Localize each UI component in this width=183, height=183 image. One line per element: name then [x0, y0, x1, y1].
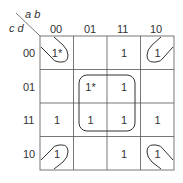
cell-01-00 — [40, 70, 74, 104]
cell-01-01: 1* — [74, 70, 108, 104]
cell-10-11: 1 — [107, 137, 141, 171]
row-variable-label: c d — [9, 23, 24, 34]
cell-00-01 — [74, 36, 108, 70]
cell-11-11: 1 — [107, 103, 141, 137]
cell-10-01 — [74, 137, 108, 171]
col-header-3: 10 — [150, 24, 162, 35]
cell-01-11: 1 — [107, 70, 141, 104]
col-header-2: 11 — [117, 24, 128, 35]
col-header-0: 00 — [50, 24, 62, 35]
cell-00-10: 1 — [141, 36, 175, 70]
row-header-0: 00 — [23, 48, 35, 59]
col-variable-label: a b — [25, 9, 40, 20]
cell-00-00: 1* — [40, 36, 74, 70]
cell-11-00: 1 — [40, 103, 74, 137]
col-header-1: 01 — [84, 24, 96, 35]
row-header-3: 10 — [23, 149, 35, 160]
cell-00-11: 1 — [107, 36, 141, 70]
cell-11-10: 1 — [141, 103, 175, 137]
row-header-1: 01 — [23, 82, 35, 93]
row-header-2: 11 — [23, 115, 34, 126]
cell-10-00: 1 — [40, 137, 74, 171]
cell-10-10: 1 — [141, 137, 175, 171]
cell-11-01: 1 — [74, 103, 108, 137]
cell-01-10 — [141, 70, 175, 104]
